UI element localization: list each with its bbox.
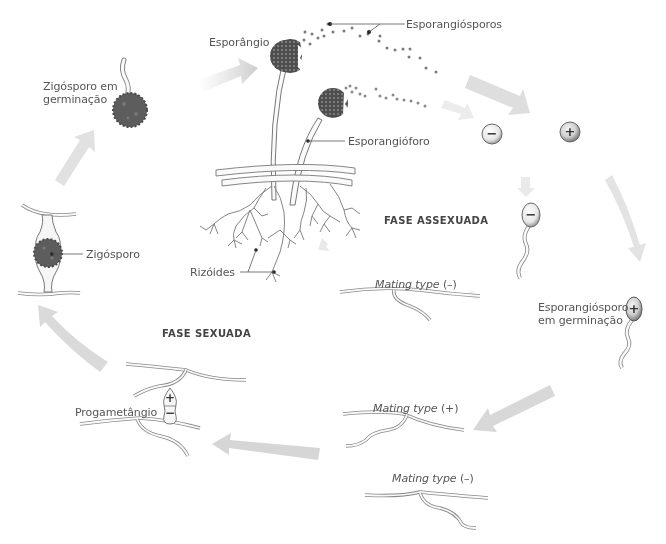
arrow-down-minus bbox=[517, 177, 535, 197]
mating-minus-bottom-hypha bbox=[365, 492, 488, 528]
label-mating-plus-sign: (+) bbox=[438, 402, 459, 415]
plus-progametangium-symbol: + bbox=[163, 392, 177, 405]
label-mating-minus-top: Mating type (–) bbox=[375, 278, 457, 291]
arrow-spores-right bbox=[465, 75, 530, 115]
minus-progametangium-symbol: − bbox=[163, 407, 177, 420]
label-sexual-phase: FASE SEXUADA bbox=[162, 328, 251, 339]
label-mating-plus: Mating type (+) bbox=[373, 402, 458, 415]
label-mating-minus-top-sign: (–) bbox=[440, 278, 457, 291]
label-mating-minus-bottom: Mating type (–) bbox=[392, 472, 474, 485]
label-sporangiospore-germinating: Esporangiósporo em germinação bbox=[538, 301, 628, 327]
arrow-spores-small bbox=[441, 100, 474, 120]
label-sporangiophore: Esporangióforo bbox=[348, 135, 430, 148]
mating-minus-top-hypha bbox=[340, 288, 480, 320]
label-mating-minus-bottom-text: Mating type bbox=[392, 472, 457, 485]
label-zygospore-germinating-line1: Zigósporo em bbox=[43, 80, 118, 93]
arrow-to-mating-plus bbox=[473, 385, 555, 432]
arrow-to-progametangium bbox=[212, 433, 320, 460]
life-cycle-diagram: Zigósporo em germinação Esporângio Espor… bbox=[0, 0, 666, 544]
arrow-to-sporangium bbox=[198, 58, 258, 92]
plus-germinating-symbol: + bbox=[627, 302, 641, 315]
zygospore-germinating-illustration bbox=[113, 60, 147, 127]
mating-plus-hypha bbox=[343, 412, 464, 446]
label-asexual-phase: FASE ASSEXUADA bbox=[384, 215, 488, 226]
arrow-to-zygospore-germinating bbox=[55, 130, 95, 186]
arrow-to-zygospore bbox=[38, 305, 108, 372]
minus-germinating-symbol: − bbox=[524, 208, 538, 221]
label-rhizoids: Rizóides bbox=[190, 266, 235, 279]
label-sporangiospore-germinating-line2: em germinação bbox=[538, 314, 628, 327]
label-sporangium: Esporângio bbox=[209, 36, 269, 49]
label-progametangium: Progametângio bbox=[75, 406, 157, 419]
label-zygospore-germinating: Zigósporo em germinação bbox=[43, 80, 118, 106]
stolon-rhizoids-illustration bbox=[200, 164, 360, 282]
label-zygospore: Zigósporo bbox=[86, 248, 140, 261]
label-mating-minus-top-text: Mating type bbox=[375, 278, 440, 291]
label-zygospore-germinating-line2: germinação bbox=[43, 93, 118, 106]
label-sporangiospores: Esporangiósporos bbox=[406, 18, 502, 31]
arrow-small-left bbox=[318, 238, 330, 251]
label-mating-plus-text: Mating type bbox=[373, 402, 438, 415]
plus-spore-symbol: + bbox=[563, 125, 577, 138]
zygospore-illustration bbox=[18, 205, 83, 295]
minus-spore-symbol: − bbox=[485, 127, 499, 140]
arrow-right-down bbox=[605, 175, 646, 262]
label-sporangiospore-germinating-line1: Esporangiósporo bbox=[538, 301, 628, 314]
label-mating-minus-bottom-sign: (–) bbox=[457, 472, 474, 485]
